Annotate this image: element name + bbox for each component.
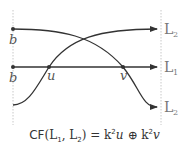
svg-text:L: L xyxy=(164,59,173,75)
svg-text:2: 2 xyxy=(173,108,178,117)
svg-text:L: L xyxy=(164,21,173,37)
label-L1: L 1 xyxy=(164,59,178,77)
label-L2-bottom: L 2 xyxy=(164,99,178,117)
label-L2-top: L 2 xyxy=(164,21,178,39)
svg-text:1: 1 xyxy=(173,68,178,77)
label-u: u xyxy=(47,68,55,83)
formula-equals: = xyxy=(86,128,104,142)
formula-term1-var: u xyxy=(116,128,124,142)
point-b-top xyxy=(11,27,15,31)
svg-text:L: L xyxy=(164,99,173,115)
formula-arg1: L xyxy=(49,128,57,142)
formula-term2-coef: k xyxy=(141,128,148,142)
formula-prefix: CF xyxy=(29,128,44,142)
label-b-top: b xyxy=(9,32,17,47)
point-b-middle xyxy=(11,65,15,69)
svg-text:2: 2 xyxy=(173,30,178,39)
curve-L2-top-to-bottom xyxy=(13,29,157,107)
label-b-middle: b xyxy=(9,70,17,85)
crossing-formula: CF(L1, L2) = k2u ⊕ k2v xyxy=(0,128,189,144)
formula-term2-var: v xyxy=(153,128,160,142)
label-v: v xyxy=(120,68,128,83)
formula-oplus: ⊕ xyxy=(124,128,142,142)
